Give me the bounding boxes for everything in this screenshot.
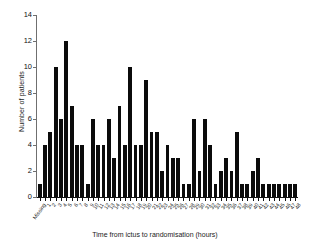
- x-tick-mark: [194, 198, 195, 201]
- bar: [176, 158, 180, 197]
- x-tick-mark: [77, 198, 78, 201]
- x-tick-mark: [199, 198, 200, 201]
- y-tick-mark: [33, 67, 37, 68]
- bar: [214, 184, 218, 197]
- bar: [277, 184, 281, 197]
- x-tick-mark: [120, 198, 121, 201]
- x-tick-mark: [189, 198, 190, 201]
- x-tick-mark: [61, 198, 62, 201]
- x-tick-mark: [215, 198, 216, 201]
- bar: [235, 132, 239, 197]
- bar: [96, 145, 100, 197]
- bar: [203, 119, 207, 197]
- y-tick-label: 14: [18, 11, 32, 19]
- x-tick-mark: [50, 198, 51, 201]
- bar: [86, 184, 90, 197]
- x-tick-mark: [152, 198, 153, 201]
- bar: [261, 184, 265, 197]
- bar: [48, 132, 52, 197]
- bar: [102, 145, 106, 197]
- x-tick-mark: [130, 198, 131, 201]
- bar: [59, 119, 63, 197]
- x-tick-mark: [279, 198, 280, 201]
- x-tick-mark: [237, 198, 238, 201]
- bar: [272, 184, 276, 197]
- bar: [187, 184, 191, 197]
- x-tick-mark: [98, 198, 99, 201]
- bar: [256, 158, 260, 197]
- y-tick-label: 8: [18, 89, 32, 97]
- x-tick-mark: [66, 198, 67, 201]
- plot-area: [37, 15, 298, 197]
- y-tick-mark: [33, 119, 37, 120]
- bar: [171, 158, 175, 197]
- x-tick-mark: [141, 198, 142, 201]
- bar: [123, 145, 127, 197]
- bar: [43, 145, 47, 197]
- bar: [91, 119, 95, 197]
- x-tick-mark: [146, 198, 147, 201]
- y-tick-label: 2: [18, 167, 32, 175]
- y-tick-mark: [33, 15, 37, 16]
- bar: [245, 184, 249, 197]
- x-tick-mark: [56, 198, 57, 201]
- bar: [288, 184, 292, 197]
- bar: [166, 145, 170, 197]
- x-tick-mark: [253, 198, 254, 201]
- x-tick-mark: [88, 198, 89, 201]
- x-tick-mark: [231, 198, 232, 201]
- x-tick-mark: [226, 198, 227, 201]
- bar: [80, 145, 84, 197]
- histogram-chart: Number of patients 02468101214 Missing12…: [0, 0, 310, 243]
- bar: [107, 119, 111, 197]
- bar: [198, 171, 202, 197]
- bar: [112, 158, 116, 197]
- bar: [267, 184, 271, 197]
- x-tick-mark: [93, 198, 94, 201]
- x-tick-mark: [263, 198, 264, 201]
- y-tick-mark: [33, 197, 37, 198]
- x-tick-mark: [285, 198, 286, 201]
- x-tick-mark: [205, 198, 206, 201]
- bar: [128, 67, 132, 197]
- x-tick-mark: [269, 198, 270, 201]
- x-tick-mark: [45, 198, 46, 201]
- bar: [230, 171, 234, 197]
- x-axis-title: Time from ictus to randomisation (hours): [0, 231, 310, 238]
- y-tick-label: 6: [18, 115, 32, 123]
- x-tick-mark: [258, 198, 259, 201]
- y-tick-mark: [33, 171, 37, 172]
- bar: [219, 171, 223, 197]
- x-tick-mark: [157, 198, 158, 201]
- x-tick-mark: [247, 198, 248, 201]
- x-tick-mark: [82, 198, 83, 201]
- x-tick-mark: [72, 198, 73, 201]
- x-tick-mark: [104, 198, 105, 201]
- bar: [182, 184, 186, 197]
- bar: [283, 184, 287, 197]
- x-tick-mark: [136, 198, 137, 201]
- x-tick-mark: [125, 198, 126, 201]
- bar: [240, 184, 244, 197]
- y-tick-label: 4: [18, 141, 32, 149]
- bar: [38, 184, 42, 197]
- bar: [70, 106, 74, 197]
- x-tick-mark: [290, 198, 291, 201]
- x-tick-mark: [178, 198, 179, 201]
- x-tick-mark: [162, 198, 163, 201]
- bar: [75, 145, 79, 197]
- bar: [54, 67, 58, 197]
- x-tick-mark: [114, 198, 115, 201]
- bar: [144, 80, 148, 197]
- bar: [155, 132, 159, 197]
- x-tick-mark: [221, 198, 222, 201]
- y-tick-mark: [33, 41, 37, 42]
- x-tick-mark: [109, 198, 110, 201]
- y-tick-label: 10: [18, 63, 32, 71]
- x-tick-mark: [40, 198, 41, 201]
- bar: [160, 171, 164, 197]
- x-tick-mark: [173, 198, 174, 201]
- bar: [150, 132, 154, 197]
- x-axis-tick-labels: Missing123456789101112131415161718192021…: [0, 199, 310, 229]
- bar: [118, 106, 122, 197]
